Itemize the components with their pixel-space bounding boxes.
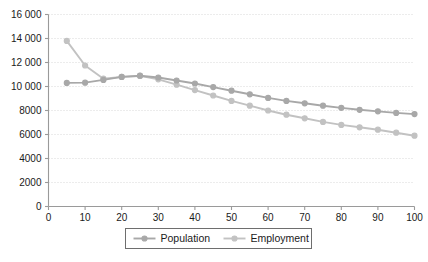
data-point-employment	[394, 130, 399, 135]
x-axis-ticks: 0102030405060708090100	[46, 207, 424, 224]
chart-canvas: 0200040006000800010 00012 00014 00016 00…	[0, 0, 428, 262]
y-tick-label: 6000	[19, 129, 42, 140]
data-point-population	[375, 109, 380, 114]
data-point-population	[284, 98, 289, 103]
data-point-employment	[375, 127, 380, 132]
x-tick-label: 60	[263, 212, 275, 223]
legend-marker-sample	[232, 236, 237, 241]
series-line-employment	[67, 41, 415, 136]
data-point-population	[339, 105, 344, 110]
y-tick-label: 10 000	[11, 81, 42, 92]
data-point-population	[156, 75, 161, 80]
x-tick-label: 0	[46, 212, 52, 223]
x-tick-label: 20	[116, 212, 128, 223]
data-point-employment	[357, 125, 362, 130]
x-tick-label: 70	[299, 212, 311, 223]
data-point-population	[83, 80, 88, 85]
data-point-population	[229, 88, 234, 93]
data-point-population	[321, 103, 326, 108]
data-point-population	[211, 85, 216, 90]
data-point-population	[394, 110, 399, 115]
data-point-population	[64, 80, 69, 85]
y-tick-label: 4000	[19, 153, 42, 164]
x-tick-label: 80	[336, 212, 348, 223]
line-chart: 0200040006000800010 00012 00014 00016 00…	[0, 0, 428, 262]
data-point-population	[192, 81, 197, 86]
data-point-population	[266, 95, 271, 100]
data-point-employment	[83, 63, 88, 68]
data-point-employment	[229, 98, 234, 103]
legend-label: Employment	[251, 232, 309, 244]
data-point-employment	[284, 112, 289, 117]
data-point-employment	[192, 88, 197, 93]
data-point-employment	[64, 38, 69, 43]
data-point-population	[119, 74, 124, 79]
legend-label: Population	[161, 232, 211, 244]
series-group	[64, 38, 417, 138]
data-point-employment	[321, 119, 326, 124]
data-point-population	[412, 112, 417, 117]
data-point-employment	[339, 122, 344, 127]
data-point-population	[247, 92, 252, 97]
data-point-employment	[302, 116, 307, 121]
y-tick-label: 8000	[19, 105, 42, 116]
data-point-employment	[412, 133, 417, 138]
data-point-employment	[247, 103, 252, 108]
series-population	[64, 73, 417, 116]
data-point-population	[138, 73, 143, 78]
x-tick-label: 40	[189, 212, 201, 223]
y-axis-ticks: 0200040006000800010 00012 00014 00016 00…	[11, 9, 49, 212]
y-tick-label: 14 000	[11, 33, 42, 44]
data-point-population	[357, 107, 362, 112]
legend-marker-sample	[142, 236, 147, 241]
series-employment	[64, 38, 417, 138]
x-tick-label: 100	[406, 212, 423, 223]
x-tick-label: 90	[372, 212, 384, 223]
data-point-population	[101, 77, 106, 82]
y-tick-label: 12 000	[11, 57, 42, 68]
y-tick-label: 16 000	[11, 9, 42, 20]
x-tick-label: 50	[226, 212, 238, 223]
x-tick-label: 10	[80, 212, 92, 223]
data-point-population	[174, 78, 179, 83]
y-tick-label: 2000	[19, 177, 42, 188]
data-point-population	[302, 101, 307, 106]
x-tick-label: 30	[153, 212, 165, 223]
data-point-employment	[211, 93, 216, 98]
y-tick-label: 0	[36, 201, 42, 212]
data-point-employment	[266, 108, 271, 113]
legend: PopulationEmployment	[126, 229, 312, 249]
